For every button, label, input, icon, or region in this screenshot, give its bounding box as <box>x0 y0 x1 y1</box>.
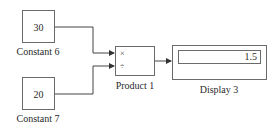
product-1-label: Product 1 <box>104 80 166 91</box>
divide-port-icon: ÷ <box>120 63 124 71</box>
constant-7-block[interactable]: 20 <box>22 77 55 110</box>
constant-7-label: Constant 7 <box>8 113 68 124</box>
multiply-port-icon: × <box>120 50 125 58</box>
product-1-block[interactable]: × ÷ <box>115 46 155 76</box>
constant-6-block[interactable]: 30 <box>22 10 55 43</box>
constant-6-label: Constant 6 <box>8 46 68 57</box>
constant-7-value: 20 <box>23 88 54 99</box>
constant-6-value: 30 <box>23 21 54 32</box>
display-3-block[interactable]: 1.5 <box>172 45 267 80</box>
display-3-value-field: 1.5 <box>178 50 261 64</box>
display-3-label: Display 3 <box>188 84 250 95</box>
